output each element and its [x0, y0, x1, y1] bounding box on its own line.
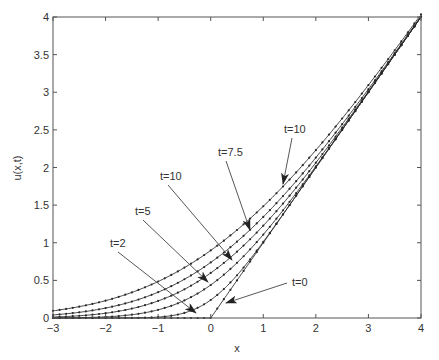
data-point	[210, 261, 212, 263]
x-tick-label: −2	[99, 322, 112, 334]
data-point	[387, 58, 389, 60]
data-point	[203, 254, 205, 256]
data-point	[361, 97, 363, 99]
data-point	[242, 266, 244, 268]
data-point	[374, 75, 376, 77]
y-tick-label: 3.5	[34, 49, 49, 61]
data-point	[262, 233, 264, 235]
data-point	[65, 315, 67, 317]
y-tick-label: 2	[43, 162, 49, 174]
x-tick-label: 0	[208, 322, 214, 334]
data-point	[164, 297, 166, 299]
data-point	[413, 22, 415, 24]
data-point	[341, 123, 343, 125]
data-point	[275, 192, 277, 194]
data-point	[216, 279, 218, 281]
data-point	[164, 277, 166, 279]
data-point	[269, 209, 271, 211]
data-point	[118, 296, 120, 298]
data-point	[249, 217, 251, 219]
data-point	[111, 298, 113, 300]
plot-frame	[53, 17, 421, 318]
data-point	[58, 309, 60, 311]
data-point	[137, 298, 139, 300]
data-point	[302, 172, 304, 174]
data-point	[249, 238, 251, 240]
data-point	[72, 315, 74, 317]
curves	[52, 13, 422, 319]
data-point	[216, 267, 218, 269]
data-point	[203, 288, 205, 290]
data-point	[98, 301, 100, 303]
data-point	[104, 300, 106, 302]
data-point	[269, 226, 271, 228]
data-point	[104, 307, 106, 309]
data-point	[104, 312, 106, 314]
y-tick-label: 0.5	[34, 274, 49, 286]
y-tick-label: 1	[43, 237, 49, 249]
data-point	[203, 303, 205, 305]
data-point	[144, 286, 146, 288]
data-point	[341, 127, 343, 129]
data-point	[315, 165, 317, 167]
axes: −3−2−10123400.511.522.533.54	[34, 11, 424, 334]
data-point	[328, 147, 330, 149]
curve-line	[53, 17, 421, 318]
data-point	[242, 255, 244, 257]
data-point	[328, 144, 330, 146]
series-t-10-top-	[52, 13, 422, 312]
data-point	[190, 274, 192, 276]
data-point	[282, 185, 284, 187]
data-point	[295, 171, 297, 173]
series-t-10-mid-	[52, 15, 422, 316]
series-t-0	[52, 16, 422, 319]
data-point	[170, 305, 172, 307]
data-point	[328, 133, 330, 135]
data-point	[308, 170, 310, 172]
data-point	[308, 165, 310, 167]
annotation-label: t=2	[110, 237, 126, 249]
data-point	[256, 211, 258, 213]
data-point	[170, 274, 172, 276]
data-point	[236, 241, 238, 243]
data-point	[236, 251, 238, 253]
y-tick-label: 1.5	[34, 199, 49, 211]
data-point	[288, 201, 290, 203]
data-point	[98, 308, 100, 310]
annotation-label: t=10	[160, 170, 182, 182]
data-point	[223, 274, 225, 276]
data-point	[380, 67, 382, 69]
y-axis-label: u(x,t)	[11, 155, 23, 180]
y-tick-label: 0	[43, 312, 49, 324]
series-t-5	[52, 16, 422, 319]
data-point	[137, 289, 139, 291]
data-point	[262, 225, 264, 227]
data-point	[256, 241, 258, 243]
data-point	[242, 270, 244, 272]
data-point	[288, 188, 290, 190]
x-axis-label: x	[234, 342, 240, 354]
data-point	[78, 311, 80, 313]
data-point	[177, 282, 179, 284]
data-point	[302, 183, 304, 185]
arrow-icon	[168, 185, 232, 260]
data-point	[420, 13, 422, 15]
data-point	[190, 296, 192, 298]
data-point	[144, 312, 146, 314]
data-point	[328, 140, 330, 142]
data-point	[236, 229, 238, 231]
data-point	[131, 300, 133, 302]
data-point	[223, 288, 225, 290]
data-point	[229, 246, 231, 248]
data-point	[157, 309, 159, 311]
y-tick-label: 4	[43, 11, 49, 23]
data-point	[72, 312, 74, 314]
x-tick-label: 1	[260, 322, 266, 334]
data-point	[98, 313, 100, 315]
data-point	[321, 148, 323, 150]
data-point	[288, 178, 290, 180]
data-point	[256, 250, 258, 252]
data-point	[210, 299, 212, 301]
data-point	[183, 312, 185, 314]
data-point	[348, 118, 350, 120]
